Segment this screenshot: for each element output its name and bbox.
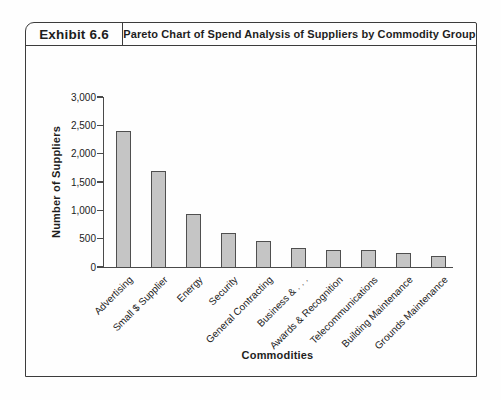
page: Exhibit 6.6 Pareto Chart of Spend Analys… <box>0 0 501 400</box>
y-tick-label: 2,500 <box>52 120 96 131</box>
y-tick-label: 0 <box>52 262 96 273</box>
y-tick-label: 500 <box>52 233 96 244</box>
bar-grounds-maintenance <box>431 256 446 267</box>
bar-telecommunications <box>361 250 376 267</box>
y-tick-label: 1,500 <box>52 177 96 188</box>
y-tick-mark <box>97 238 103 239</box>
y-tick-label: 2,000 <box>52 148 96 159</box>
bar-awards-recognition <box>326 250 341 267</box>
y-tick-mark <box>97 125 103 126</box>
bar-business <box>291 248 306 267</box>
bar-building-maintenance <box>396 253 411 267</box>
y-tick-mark <box>97 210 103 211</box>
y-tick-label: 1,000 <box>52 205 96 216</box>
bar-security <box>221 233 236 267</box>
x-axis-title: Commodities <box>103 349 452 361</box>
exhibit-title: Pareto Chart of Spend Analysis of Suppli… <box>123 23 476 45</box>
exhibit-number: Exhibit 6.6 <box>26 23 123 45</box>
y-tick-mark <box>97 153 103 154</box>
bar-energy <box>186 214 201 267</box>
bar-general-contracting <box>256 241 271 267</box>
y-tick-mark <box>97 266 103 267</box>
plot: 05001,0001,5002,0002,5003,000Advertising… <box>103 97 453 268</box>
y-tick-label: 3,000 <box>52 92 96 103</box>
exhibit-header: Exhibit 6.6 Pareto Chart of Spend Analys… <box>26 23 476 46</box>
bar-small-supplier <box>151 171 166 267</box>
y-tick-mark <box>97 181 103 182</box>
bar-advertising <box>116 131 131 267</box>
y-tick-mark <box>97 96 103 97</box>
